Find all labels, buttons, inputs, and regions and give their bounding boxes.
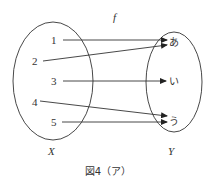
figure-caption: 図4（ア） — [85, 166, 131, 177]
codomain-element-i: い — [169, 76, 179, 87]
domain-element-4: 4 — [32, 96, 38, 108]
domain-element-3: 3 — [51, 75, 57, 87]
domain-element-2: 2 — [32, 55, 38, 67]
function-mapping-diagram: f 1 2 3 4 5 あ い う X Y 図4（ア） — [0, 0, 216, 183]
domain-element-1: 1 — [51, 34, 57, 46]
codomain-element-u: う — [169, 116, 179, 127]
domain-set-label: X — [47, 145, 56, 157]
codomain-set-label: Y — [168, 145, 176, 157]
mapping-arrow-2-to-a — [43, 45, 167, 61]
function-label: f — [113, 11, 118, 23]
codomain-element-a: あ — [169, 37, 179, 48]
domain-element-5: 5 — [51, 116, 57, 128]
mapping-arrow-4-to-u — [40, 101, 167, 116]
